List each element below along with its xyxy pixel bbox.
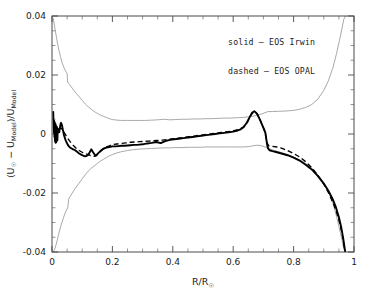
x-tick-label: 0 [49,257,55,267]
y-title-minus: − U [5,141,16,162]
x-axis-title-main: R/R [192,276,209,287]
x-tick-label: 0.8 [286,257,301,267]
x-tick-labels: 00.20.40.60.81 [49,257,357,267]
y-tick-label: 0.02 [26,70,46,80]
x-tick-label: 0.2 [105,257,119,267]
x-tick-label: 0.6 [226,257,241,267]
y-tick-labels: 0.040.020-0.02-0.04 [23,11,47,257]
x-tick-label: 1 [351,257,357,267]
y-tick-label: -0.04 [23,247,47,257]
x-axis-title: R/R☉ [192,276,214,289]
plot-canvas: 00.20.40.60.81 0.040.020-0.02-0.04 R/R☉ … [0,0,373,295]
svg-text:R/R☉: R/R☉ [192,276,214,289]
y-title-model-2: Model [10,90,17,109]
y-title-open: (U [5,167,16,178]
x-tick-label: 0.4 [166,257,181,267]
figure-container: 00.20.40.60.81 0.040.020-0.02-0.04 R/R☉ … [0,0,373,295]
y-tick-label: 0.04 [26,11,46,21]
y-tick-label: -0.02 [23,188,46,198]
legend-entry-dashed: dashed – EOS OPAL [228,66,315,76]
y-axis-title: (U☉ − UModel)/UModel [5,90,17,178]
legend-entry-solid: solid – EOS Irwin [228,37,315,47]
y-tick-label: 0 [40,129,46,139]
y-title-close: )/U [5,108,16,122]
x-axis-title-sub: ☉ [208,282,214,289]
plot-background [52,16,354,252]
svg-text:(U☉ − UModel)/UModel: (U☉ − UModel)/UModel [5,90,17,178]
y-title-model-1: Model [10,122,17,141]
